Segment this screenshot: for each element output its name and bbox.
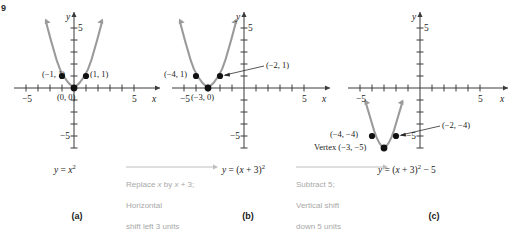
point-neg3-0 <box>205 85 212 92</box>
x-axis-b <box>172 85 330 92</box>
transition-arrow-a-to-b <box>126 158 222 168</box>
y-axis-b <box>241 12 248 148</box>
point-neg2-1 <box>217 73 223 79</box>
data-points-c <box>369 133 399 152</box>
x-axis-c <box>348 85 508 92</box>
point-label-neg2-1: (−2, 1) <box>266 60 289 70</box>
y-axis-label-c: y <box>411 12 417 22</box>
point-neg4-1 <box>193 73 199 79</box>
point-label-neg2-neg4: (−2, −4) <box>442 120 470 130</box>
xtick-label-5-a: 5 <box>132 94 137 104</box>
transition-b-to-c: Subtract 5; Vertical shift down 5 units <box>296 158 392 234</box>
x-axis-label-c: x <box>499 94 505 104</box>
data-points-b <box>193 73 223 92</box>
y-axis-label-a: y <box>65 12 71 22</box>
transition-arrow-b-to-c <box>296 158 392 168</box>
point-label-neg3-0: (−3, 0) <box>191 92 214 102</box>
panel-caption-b: (b) <box>228 211 268 221</box>
point-label-neg4-neg4: (−4, −4) <box>330 129 358 139</box>
transition-text-a-to-b: Replace x by x + 3; Horizontal shift lef… <box>126 168 222 234</box>
point-label-0-0: (0, 0) <box>57 92 75 102</box>
point-neg3-neg5 <box>381 145 388 152</box>
plot-b: −5 5 5 −5 y x <box>160 0 340 160</box>
vertex-label-c: Vertex (−3, −5) <box>314 142 366 152</box>
ytick-label-5-b: 5 <box>248 23 253 33</box>
y-axis-c <box>417 12 424 148</box>
curve-b <box>179 19 237 88</box>
ytick-label-neg5-b: −5 <box>230 131 240 141</box>
panel-caption-c: (c) <box>414 211 454 221</box>
xtick-label-neg5-c: −5 <box>356 94 366 104</box>
y-axis-label-b: y <box>235 12 241 22</box>
transition-line2-a-to-b: Horizontal <box>126 201 222 212</box>
point-neg2-neg4 <box>393 133 399 139</box>
ytick-label-neg5-a: −5 <box>60 131 70 141</box>
point-0-0 <box>71 85 78 92</box>
point-label-1-1: (1, 1) <box>90 69 108 79</box>
xtick-label-neg5-a: −5 <box>22 94 32 104</box>
transition-line2-b-to-c: Vertical shift <box>296 201 392 212</box>
y-axis-a <box>71 12 78 148</box>
plot-a: −5 5 5 −5 y x <box>0 0 175 160</box>
transition-text-b-to-c: Subtract 5; Vertical shift down 5 units <box>296 168 392 234</box>
xtick-label-5-b: 5 <box>302 94 307 104</box>
point-1-1 <box>83 73 89 79</box>
plot-c: −5 5 5 −5 y x <box>330 0 520 160</box>
ytick-label-5-a: 5 <box>78 23 83 33</box>
equation-label-a: y = x2 <box>54 163 76 175</box>
transition-line1-b-to-c: Subtract 5; <box>296 180 392 191</box>
transition-a-to-b: Replace x by x + 3; Horizontal shift lef… <box>126 158 222 234</box>
figure-root: 9 <box>0 0 520 234</box>
transition-line3-a-to-b: shift left 3 units <box>126 222 222 233</box>
xtick-label-neg5-b: −5 <box>180 94 190 104</box>
ytick-label-5-c: 5 <box>424 23 429 33</box>
x-axis-label-a: x <box>151 94 157 104</box>
panel-caption-a: (a) <box>57 211 97 221</box>
x-axis-a <box>14 85 160 92</box>
point-label-neg4-1: (−4, 1) <box>164 69 187 79</box>
ytick-label-neg5-c: −5 <box>406 131 416 141</box>
equation-label-b: y = (x + 3)2 <box>222 163 265 175</box>
point-neg4-neg4 <box>369 133 375 139</box>
transition-line3-b-to-c: down 5 units <box>296 222 392 233</box>
xtick-label-5-c: 5 <box>478 94 483 104</box>
point-label-neg1-1: (−1, 1) <box>42 69 65 79</box>
x-axis-label-b: x <box>321 94 327 104</box>
curve-c <box>365 99 404 148</box>
